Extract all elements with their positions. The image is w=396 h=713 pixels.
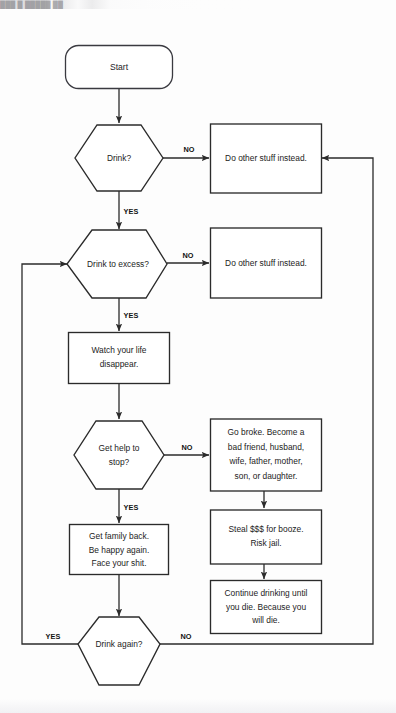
node-get-help-to-stop-line1: Get help to xyxy=(99,443,140,453)
node-steal-for-booze[interactable]: Steal $$$ for booze. Risk jail. xyxy=(211,510,322,564)
node-do-other-stuff-2[interactable]: Do other stuff instead. xyxy=(211,228,322,298)
node-watch-life-disappear[interactable]: Watch your life disappear. xyxy=(69,333,170,384)
node-continue-drinking-line2: you die. Because you xyxy=(226,602,306,612)
node-drink-again[interactable]: Drink again? xyxy=(78,617,160,685)
scan-bottom-shading xyxy=(0,699,396,713)
node-continue-drinking[interactable]: Continue drinking until you die. Because… xyxy=(211,581,322,634)
node-drink-again-shape xyxy=(78,617,160,685)
node-continue-drinking-line1: Continue drinking until xyxy=(225,588,308,598)
node-watch-life-disappear-line1: Watch your life xyxy=(91,345,146,355)
edge-label-drinkagain-yes: YES xyxy=(45,632,60,641)
node-start[interactable]: Start xyxy=(66,46,173,89)
node-drink-label: Drink? xyxy=(107,153,132,163)
edge-label-drink-no: NO xyxy=(183,145,194,154)
node-watch-life-disappear-line2: disappear. xyxy=(100,359,139,369)
edge-label-drinkagain-no: NO xyxy=(180,632,191,641)
node-get-help-to-stop-line2: stop? xyxy=(109,457,130,467)
flowchart-page: ███ █ █████ ██ xyxy=(0,0,396,713)
edge-drinkagain-yes-to-excess xyxy=(22,264,78,644)
node-drink-again-label: Drink again? xyxy=(95,639,142,649)
edge-label-drink-yes: YES xyxy=(123,207,138,216)
node-get-family-back[interactable]: Get family back. Be happy again. Face yo… xyxy=(70,525,169,575)
node-go-broke-line4: son, or daughter. xyxy=(235,471,298,481)
node-do-other-stuff-1-label: Do other stuff instead. xyxy=(225,153,307,163)
node-go-broke-line2: bad friend, husband, xyxy=(228,442,304,452)
node-steal-for-booze-line1: Steal $$$ for booze. xyxy=(229,524,304,534)
node-get-family-back-line3: Face your shit. xyxy=(92,558,147,568)
node-steal-for-booze-line2: Risk jail. xyxy=(250,538,281,548)
edge-label-excess-no: NO xyxy=(182,251,193,260)
node-get-help-to-stop[interactable]: Get help to stop? xyxy=(74,421,164,489)
node-continue-drinking-line3: will die. xyxy=(251,615,279,625)
flowchart-canvas: Start Drink? Do other stuff instead. Dri… xyxy=(0,0,396,713)
node-drink-to-excess[interactable]: Drink to excess? xyxy=(67,230,167,298)
node-do-other-stuff-2-label: Do other stuff instead. xyxy=(225,258,307,268)
node-go-broke-line3: wife, father, mother, xyxy=(228,456,302,466)
node-get-family-back-line1: Get family back. xyxy=(89,531,149,541)
node-start-label: Start xyxy=(110,62,129,72)
node-go-broke-line1: Go broke. Become a xyxy=(228,427,305,437)
edge-label-gethelp-no: NO xyxy=(181,443,192,452)
node-drink[interactable]: Drink? xyxy=(75,125,163,191)
node-go-broke[interactable]: Go broke. Become a bad friend, husband, … xyxy=(211,419,322,491)
node-watch-life-disappear-shape xyxy=(69,333,170,384)
edge-label-gethelp-yes: YES xyxy=(123,503,138,512)
node-do-other-stuff-1[interactable]: Do other stuff instead. xyxy=(211,124,322,193)
node-get-family-back-line2: Be happy again. xyxy=(89,545,150,555)
edge-label-excess-yes: YES xyxy=(123,311,138,320)
node-drink-to-excess-label: Drink to excess? xyxy=(87,259,149,269)
node-steal-for-booze-shape xyxy=(211,510,322,564)
node-get-help-to-stop-shape xyxy=(74,421,164,489)
